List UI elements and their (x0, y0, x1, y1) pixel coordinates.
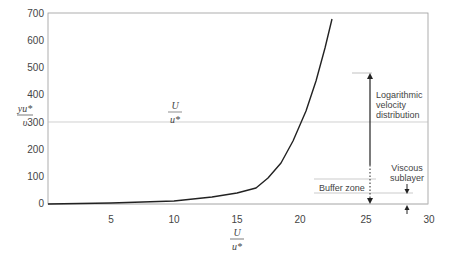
svg-text:20: 20 (294, 214, 306, 225)
arrow-up-icon (367, 73, 373, 79)
svg-text:yu*: yu* (17, 103, 32, 114)
arrow-down-icon (367, 198, 373, 204)
svg-text:30: 30 (423, 214, 435, 225)
svg-text:Viscous: Viscous (391, 163, 423, 173)
svg-text:Logarithmic: Logarithmic (376, 90, 423, 100)
svg-text:velocity: velocity (376, 100, 407, 110)
svg-text:υ: υ (23, 117, 28, 128)
svg-text:u*: u* (232, 241, 242, 252)
svg-text:U: U (171, 100, 179, 111)
svg-text:U: U (233, 227, 241, 238)
center-label: U u* (168, 100, 182, 125)
viscous-sublayer-label: Viscous sublayer (390, 163, 424, 183)
x-axis-label: U u* (230, 227, 244, 252)
svg-text:sublayer: sublayer (390, 173, 424, 183)
x-axis: 5 10 15 20 25 30 (108, 214, 435, 225)
svg-text:0: 0 (38, 198, 44, 209)
svg-text:5: 5 (108, 214, 114, 225)
velocity-profile-chart: 0 100 200 300 400 500 600 700 yu* υ 5 10… (0, 0, 450, 259)
svg-text:25: 25 (360, 214, 372, 225)
arrow-up-icon (405, 205, 410, 210)
svg-text:u*: u* (170, 114, 180, 125)
svg-text:500: 500 (27, 62, 44, 73)
svg-text:200: 200 (27, 144, 44, 155)
svg-text:100: 100 (27, 171, 44, 182)
log-region-label: Logarithmic velocity distribution (376, 90, 423, 120)
svg-text:600: 600 (27, 35, 44, 46)
svg-text:300: 300 (27, 117, 44, 128)
buffer-zone-label: Buffer zone (319, 183, 365, 193)
svg-text:700: 700 (27, 8, 44, 19)
svg-text:15: 15 (231, 214, 243, 225)
svg-text:10: 10 (168, 214, 180, 225)
velocity-profile-curve (48, 19, 332, 204)
svg-text:400: 400 (27, 89, 44, 100)
plot-frame (48, 13, 428, 204)
svg-text:distribution: distribution (376, 110, 420, 120)
